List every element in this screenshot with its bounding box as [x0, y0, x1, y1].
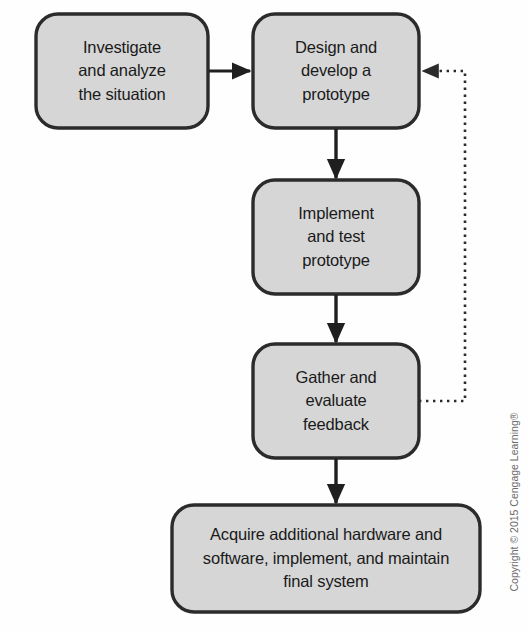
- node-shape-implement[interactable]: [253, 180, 419, 294]
- node-shape-design[interactable]: [253, 14, 419, 128]
- copyright-notice: Copyright © 2015 Cengage Learning®: [499, 372, 529, 632]
- node-shape-investigate[interactable]: [36, 14, 208, 128]
- connector-gather-feedback-to-design: [419, 71, 465, 401]
- copyright-text: Copyright © 2015 Cengage Learning®: [508, 413, 520, 592]
- node-shape-acquire[interactable]: [172, 505, 480, 612]
- diagram-canvas: Investigate and analyze the situation De…: [0, 0, 529, 632]
- flowchart-graphics: [0, 0, 529, 632]
- node-shape-gather[interactable]: [253, 344, 419, 458]
